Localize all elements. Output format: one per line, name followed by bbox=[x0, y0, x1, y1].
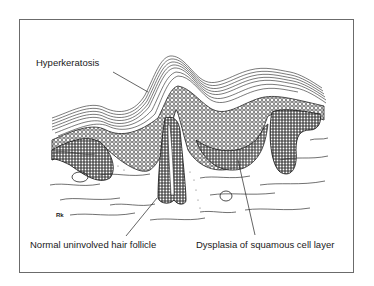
right-rete-ridge bbox=[270, 110, 320, 174]
hyperkeratosis-leader bbox=[113, 72, 148, 92]
hyperkeratosis-label: Hyperkeratosis bbox=[36, 58, 99, 68]
artist-signature: Rk bbox=[56, 212, 64, 218]
dysplasia-label: Dysplasia of squamous cell layer bbox=[196, 240, 334, 250]
follicle-leader bbox=[126, 198, 157, 236]
blood-vessel bbox=[72, 172, 88, 182]
blood-vessel bbox=[220, 191, 232, 201]
hair-follicle-label: Normal uninvolved hair follicle bbox=[30, 240, 156, 250]
dysplasia-leader bbox=[238, 160, 255, 235]
